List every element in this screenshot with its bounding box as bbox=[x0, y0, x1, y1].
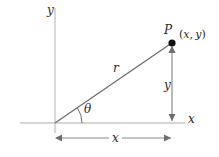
point-coordinates-label: (x, y) bbox=[179, 29, 206, 40]
point-p-label: P bbox=[164, 24, 172, 36]
angle-arc bbox=[78, 108, 83, 123]
paren-close: ) bbox=[201, 28, 205, 41]
radius-label: r bbox=[113, 62, 119, 74]
point-p-marker bbox=[168, 39, 175, 46]
x-dimension-label: x bbox=[109, 132, 122, 144]
y-axis-label: y bbox=[47, 4, 54, 16]
polar-coordinates-figure: y x r θ y x P (x, y) bbox=[0, 0, 219, 157]
theta-angle-label: θ bbox=[84, 103, 91, 115]
x-axis-label: x bbox=[188, 113, 195, 125]
y-dimension-label: y bbox=[164, 79, 171, 91]
radius-line bbox=[55, 44, 171, 124]
